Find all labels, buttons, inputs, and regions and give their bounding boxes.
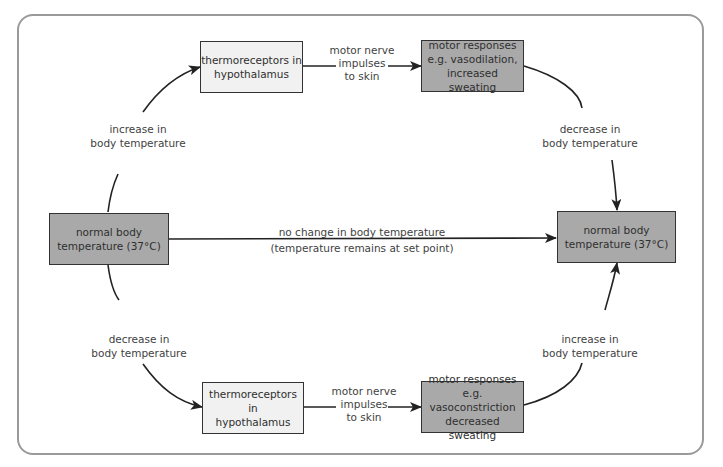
label-line: motor nerve [327, 44, 397, 57]
label-nerve-bottom: motor nerve impulses to skin [329, 385, 399, 424]
arrow-right-up-upper [605, 263, 617, 310]
box-line: increased sweating [422, 66, 523, 94]
box-line: normal body [565, 223, 668, 237]
normal-temperature-box-left: normal body temperature (37°C) [49, 213, 169, 265]
box-line: normal body [57, 225, 160, 239]
arrow-right-down-upper [524, 66, 582, 108]
label-line: motor nerve [329, 385, 399, 398]
label-increase-right: increase in body temperature [540, 332, 640, 360]
label-decrease-left: decrease in body temperature [89, 332, 189, 360]
thermoreceptors-box-top: thermoreceptors in hypothalamus [200, 41, 303, 93]
box-line: temperature (37°C) [57, 239, 160, 253]
arrow-left-down-lower [143, 364, 202, 407]
box-line: hypothalamus [203, 415, 303, 429]
arrow-left-up-upper [143, 67, 200, 112]
box-line: thermoreceptors in [203, 387, 303, 415]
motor-responses-box-top: motor responses e.g. vasodilation, incre… [421, 40, 524, 92]
label-nerve-top: motor nerve impulses to skin [327, 44, 397, 83]
label-line: decrease in [89, 332, 189, 346]
box-line: e.g. vasoconstriction [422, 386, 523, 414]
label-line: no change in body temperature [262, 224, 462, 240]
label-line: to skin [329, 411, 399, 424]
box-line: temperature (37°C) [565, 237, 668, 251]
label-line: increase in [88, 122, 188, 136]
label-increase-left: increase in body temperature [88, 122, 188, 150]
box-line: e.g. vasodilation, [422, 52, 523, 66]
arrow-right-up-lower [524, 363, 582, 405]
label-decrease-right: decrease in body temperature [540, 122, 640, 150]
label-line: to skin [327, 70, 397, 83]
label-line: body temperature [88, 136, 188, 150]
box-line: motor responses [422, 38, 523, 52]
label-line: decrease in [540, 122, 640, 136]
box-line: decreased sweating [422, 414, 523, 442]
label-line: body temperature [89, 346, 189, 360]
label-no-change: no change in body temperature (temperatu… [262, 224, 462, 256]
arrow-right-down-lower [612, 160, 617, 210]
label-line: body temperature [540, 136, 640, 150]
normal-temperature-box-right: normal body temperature (37°C) [557, 211, 676, 263]
label-line: increase in [540, 332, 640, 346]
label-line: body temperature [540, 346, 640, 360]
thermoreceptors-box-bottom: thermoreceptors in hypothalamus [202, 382, 304, 434]
box-line: thermoreceptors in [201, 53, 302, 67]
arrow-left-up-lower [108, 174, 118, 212]
label-line: (temperature remains at set point) [262, 240, 462, 256]
box-line: motor responses [422, 372, 523, 386]
arrow-left-down-upper [108, 265, 119, 300]
label-line: impulses [327, 57, 397, 70]
box-line: hypothalamus [201, 67, 302, 81]
motor-responses-box-bottom: motor responses e.g. vasoconstriction de… [421, 381, 524, 433]
label-line: impulses [329, 398, 399, 411]
